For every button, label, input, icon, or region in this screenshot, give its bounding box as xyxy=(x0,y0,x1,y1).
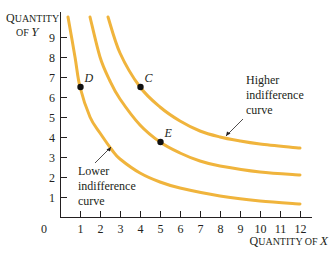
y-axis-ticks: 123456789 xyxy=(49,31,67,205)
x-tick-label: 12 xyxy=(295,222,307,236)
x-axis-title: QUANTITY OF X xyxy=(250,233,330,248)
higher-curve-label-line3: curve xyxy=(246,103,273,117)
y-tick-label: 1 xyxy=(49,191,55,205)
x-tick-label: 11 xyxy=(275,222,287,236)
y-tick-label: 8 xyxy=(49,51,55,65)
point-label-c: C xyxy=(145,71,154,85)
x-tick-label: 5 xyxy=(158,222,164,236)
y-tick-label: 9 xyxy=(49,31,55,45)
higher-curve-label-line1: Higher xyxy=(246,73,279,87)
x-tick-label: 4 xyxy=(138,222,144,236)
y-tick-label: 4 xyxy=(49,131,55,145)
origin-label: 0 xyxy=(41,222,47,236)
x-tick-label: 8 xyxy=(218,222,224,236)
x-tick-label: 6 xyxy=(178,222,184,236)
x-axis-ticks: 123456789101112 xyxy=(78,211,307,236)
point-c xyxy=(137,84,143,90)
point-label-d: D xyxy=(84,71,94,85)
y-axis-title-line2: OF Y xyxy=(16,24,40,39)
x-tick-label: 1 xyxy=(78,222,84,236)
x-tick-label: 7 xyxy=(198,222,204,236)
y-tick-label: 2 xyxy=(49,171,55,185)
point-d xyxy=(77,84,83,90)
y-tick-label: 5 xyxy=(49,111,55,125)
y-tick-label: 7 xyxy=(49,71,55,85)
x-tick-label: 2 xyxy=(98,222,104,236)
y-axis-title-line1: QUANTITY xyxy=(6,11,59,25)
lower-curve-label-line2: indifference xyxy=(78,179,136,193)
y-tick-label: 3 xyxy=(49,151,55,165)
higher-curve-label-line2: indifference xyxy=(246,88,304,102)
indifference-curve-chart: 123456789 123456789101112 0 QUANTITY OF … xyxy=(0,0,335,261)
x-tick-label: 3 xyxy=(118,222,124,236)
lower-curve-label-line3: curve xyxy=(78,194,105,208)
lower-curve-label-line1: Lower xyxy=(78,164,109,178)
x-tick-label: 9 xyxy=(238,222,244,236)
point-label-e: E xyxy=(164,126,173,140)
y-tick-label: 6 xyxy=(49,91,55,105)
point-e xyxy=(157,139,163,145)
